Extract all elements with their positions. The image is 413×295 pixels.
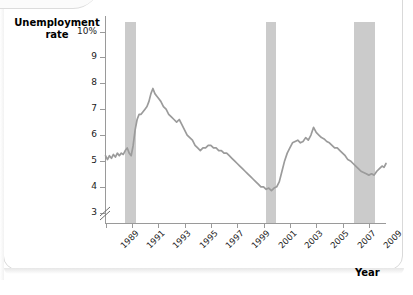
- y-axis-title: Unemployment rate: [14, 17, 100, 41]
- y-axis-title-line2: rate: [14, 29, 100, 41]
- y-axis-title-line1: Unemployment: [14, 17, 100, 29]
- x-axis-title: Year: [355, 267, 380, 278]
- figure-screenshot: 10%9876543 19891991199319951997199920012…: [0, 0, 413, 295]
- unemployment-rate-series-line: [0, 0, 413, 295]
- unemployment-rate-line-chart: 10%9876543 19891991199319951997199920012…: [0, 0, 413, 295]
